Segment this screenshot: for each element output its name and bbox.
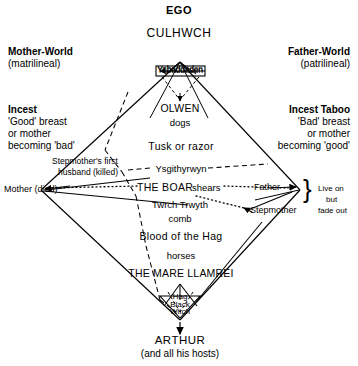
node-culhwch: CULHWCH [147, 26, 212, 40]
label-incest-taboo: Incest Taboo [289, 104, 350, 116]
page-title-ego: EGO [166, 4, 192, 17]
node-stepmother: Stepmother [250, 205, 297, 216]
node-mother: Mother (died) [4, 184, 58, 195]
node-ysbaddaden: Ysbaddaden Ysbaddaden [157, 64, 203, 75]
node-dogs: dogs [170, 117, 191, 128]
label-incest-line-1: or mother [8, 128, 51, 140]
node-comb: comb [168, 213, 191, 224]
label-incest-line-0: 'Good' breast [8, 116, 67, 128]
label-incest-line-2: becoming 'bad' [8, 140, 75, 152]
label-incest: Incest [8, 104, 37, 116]
label-father-world-sub: (patrilineal) [301, 58, 350, 70]
node-hag-black-witch: Hag Black Witch [170, 293, 190, 316]
node-horses: horses [167, 250, 196, 261]
node-twrch-trwyth: Twrch Trwyth [152, 199, 208, 210]
diagram-canvas: EGO CULHWCH Mother-World (matrilineal) F… [0, 0, 358, 366]
label-incest-taboo-line-2: becoming 'good' [278, 140, 350, 152]
label-incest-taboo-line-0: 'Bad' breast [298, 116, 350, 128]
node-blood-of-the-hag: Blood of the Hag [139, 230, 222, 242]
node-arthur-sub: (and all his hosts) [141, 348, 219, 360]
node-father: Father [254, 182, 280, 193]
stepmother-husband-line [46, 178, 150, 190]
node-arthur: ARTHUR [155, 334, 206, 348]
label-mother-world-sub: (matrilineal) [8, 58, 60, 70]
label-mother-world: Mother-World [8, 46, 73, 58]
right-brace: } [303, 176, 312, 202]
node-stepmother-first-husband-l2: husband (killed) [58, 167, 118, 177]
node-shears: shears [192, 182, 221, 193]
node-the-mare-llamrei: THE MARE LLAMREI [128, 267, 233, 279]
label-live-on-1: but [326, 195, 337, 204]
label-incest-taboo-line-1: or mother [307, 128, 350, 140]
label-father-world: Father-World [288, 46, 350, 58]
node-the-boar: THE BOAR [137, 181, 193, 193]
label-live-on-0: Live on [318, 184, 344, 193]
node-stepmother-first-husband-l1: Stepmother's first [52, 156, 118, 166]
node-witch: Witch [170, 308, 190, 316]
label-live-on-2: fade out [318, 206, 347, 215]
node-ysbaddaden-overlay: Ysbaddaden [157, 65, 203, 75]
node-olwen: OLWEN [160, 102, 199, 114]
node-tusk-or-razor: Tusk or razor [148, 140, 213, 152]
node-ysgithyrwyn: Ysgithyrwyn [155, 163, 206, 174]
